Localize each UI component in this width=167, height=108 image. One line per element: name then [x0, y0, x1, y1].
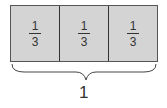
numerator: 1	[130, 20, 137, 32]
fraction-one-third: 1 3	[78, 20, 90, 48]
fraction-line	[78, 33, 90, 34]
fraction-bar: 1 3 1 3 1 3	[10, 5, 158, 62]
curly-brace-icon	[10, 62, 158, 82]
fraction-line	[127, 33, 139, 34]
fraction-one-third: 1 3	[127, 20, 139, 48]
denominator: 3	[130, 36, 137, 48]
fraction-cell-1: 1 3	[11, 6, 59, 61]
numerator: 1	[81, 20, 88, 32]
fraction-one-third: 1 3	[29, 20, 41, 48]
denominator: 3	[32, 36, 39, 48]
fraction-cell-2: 1 3	[59, 6, 108, 61]
total-label: 1	[79, 83, 88, 103]
fraction-line	[29, 33, 41, 34]
denominator: 3	[81, 36, 88, 48]
numerator: 1	[32, 20, 39, 32]
fraction-cell-3: 1 3	[108, 6, 157, 61]
